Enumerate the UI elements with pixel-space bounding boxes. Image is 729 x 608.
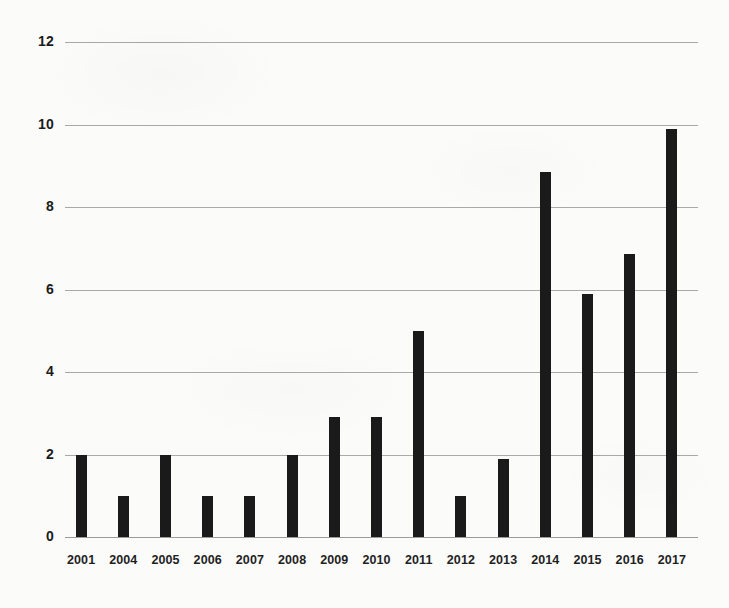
x-axis-tick-label: 2014 [525, 553, 565, 567]
y-axis-tick-label: 6 [12, 281, 54, 297]
y-axis-tick-label: 0 [12, 528, 54, 544]
bar [582, 294, 593, 537]
x-axis-tick-label: 2015 [568, 553, 608, 567]
x-axis-tick-label: 2006 [188, 553, 228, 567]
x-axis-tick-label: 2013 [483, 553, 523, 567]
gridline-4 [65, 372, 698, 373]
bar [118, 496, 129, 537]
x-axis-tick-label: 2005 [146, 553, 186, 567]
gridline-8 [65, 207, 698, 208]
gridline-12 [65, 42, 698, 43]
x-axis-tick-label: 2012 [441, 553, 481, 567]
x-axis-tick-label: 2011 [399, 553, 439, 567]
x-axis-tick-label: 2017 [652, 553, 692, 567]
gridline-6 [65, 290, 698, 291]
bar [371, 417, 382, 537]
bar [76, 455, 87, 538]
x-axis-tick-label: 2007 [230, 553, 270, 567]
bar [624, 254, 635, 537]
x-axis-tick-label: 2010 [357, 553, 397, 567]
bar [202, 496, 213, 537]
y-axis-tick-label: 4 [12, 363, 54, 379]
bar-chart: 024681012 200120042005200620072008200920… [0, 0, 729, 608]
y-axis: 024681012 [8, 42, 54, 537]
bar [666, 129, 677, 537]
gridline-0 [65, 537, 698, 538]
bar [244, 496, 255, 537]
bar [287, 455, 298, 538]
x-axis-tick-label: 2001 [61, 553, 101, 567]
bar [455, 496, 466, 537]
bar [413, 331, 424, 537]
x-axis-tick-label: 2004 [103, 553, 143, 567]
bar [498, 459, 509, 537]
y-axis-tick-label: 2 [12, 446, 54, 462]
bar [160, 455, 171, 538]
x-axis-tick-label: 2008 [272, 553, 312, 567]
plot-area [65, 42, 698, 537]
y-axis-tick-label: 12 [12, 33, 54, 49]
y-axis-tick-label: 8 [12, 198, 54, 214]
x-axis-tick-label: 2016 [610, 553, 650, 567]
bar [540, 172, 551, 537]
x-axis-tick-label: 2009 [314, 553, 354, 567]
gridline-10 [65, 125, 698, 126]
y-axis-tick-label: 10 [12, 116, 54, 132]
bar [329, 417, 340, 537]
